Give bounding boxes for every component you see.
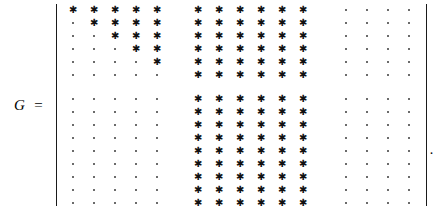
matrix-cell-nonzero (293, 131, 314, 144)
matrix-row (63, 131, 420, 144)
matrix-cell-nonzero (272, 144, 293, 157)
matrix-column-block (188, 157, 314, 170)
matrix-cell-nonzero (251, 29, 272, 42)
matrix-cell-nonzero (188, 29, 209, 42)
matrix-cell-nonzero (147, 16, 168, 29)
matrix-row (63, 68, 420, 81)
matrix-cell-zero (63, 42, 84, 55)
matrix-cell-nonzero (105, 3, 126, 16)
matrix-cell-nonzero (272, 29, 293, 42)
matrix-row (63, 105, 420, 118)
matrix-cell-nonzero (188, 16, 209, 29)
matrix-cell-nonzero (293, 183, 314, 196)
matrix-cell-nonzero (105, 16, 126, 29)
matrix-cell-nonzero (230, 170, 251, 183)
matrix-cell-nonzero (188, 170, 209, 183)
matrix-cell-nonzero (188, 92, 209, 105)
matrix-cell-nonzero (293, 42, 314, 55)
matrix-cell-nonzero (251, 183, 272, 196)
matrix-cell-nonzero (188, 131, 209, 144)
matrix-cell-nonzero (293, 118, 314, 131)
matrix-cell-nonzero (188, 68, 209, 81)
matrix-row-block (63, 92, 420, 209)
matrix-cell-nonzero (84, 3, 105, 16)
matrix-cell-nonzero (230, 16, 251, 29)
matrix-cell-nonzero (251, 68, 272, 81)
matrix-column-block (188, 42, 314, 55)
matrix-cell-nonzero (230, 42, 251, 55)
matrix-cell-nonzero (272, 118, 293, 131)
matrix-cell-nonzero (272, 105, 293, 118)
matrix-left-bracket (56, 4, 57, 206)
matrix-cell-nonzero (293, 170, 314, 183)
matrix-cell-nonzero (209, 92, 230, 105)
matrix-cell-nonzero (209, 68, 230, 81)
matrix-cell-nonzero (230, 3, 251, 16)
matrix-cell-nonzero (126, 29, 147, 42)
matrix-cell-nonzero (230, 55, 251, 68)
matrix-cell-nonzero (230, 144, 251, 157)
matrix-cell-zero (105, 55, 126, 68)
matrix-cell-nonzero (188, 157, 209, 170)
matrix-grid (63, 4, 420, 206)
matrix-cell-nonzero (209, 42, 230, 55)
matrix-cell-nonzero (209, 144, 230, 157)
matrix-cell-nonzero (293, 157, 314, 170)
matrix-cell-nonzero (251, 92, 272, 105)
matrix-cell-nonzero (230, 131, 251, 144)
matrix-cell-nonzero (293, 29, 314, 42)
matrix-cell-nonzero (209, 183, 230, 196)
matrix-cell-nonzero (293, 68, 314, 81)
matrix-column-block (188, 68, 314, 81)
matrix-cell-nonzero (251, 42, 272, 55)
matrix-row (63, 157, 420, 170)
matrix-cell-zero (84, 29, 105, 42)
matrix-column-block (188, 16, 314, 29)
matrix-cell-nonzero (147, 29, 168, 42)
matrix-cell-nonzero (230, 68, 251, 81)
matrix-cell-nonzero (251, 105, 272, 118)
matrix-cell-nonzero (188, 196, 209, 209)
matrix-cell-nonzero (126, 16, 147, 29)
matrix-right-bracket (426, 4, 427, 206)
matrix-cell-nonzero (251, 144, 272, 157)
matrix-cell-zero (63, 55, 84, 68)
matrix-cell-nonzero (251, 118, 272, 131)
matrix-cell-nonzero (230, 92, 251, 105)
matrix-cell-nonzero (230, 118, 251, 131)
matrix-cell-nonzero (293, 105, 314, 118)
matrix-cell-nonzero (209, 170, 230, 183)
matrix-cell-zero (63, 29, 84, 42)
matrix-variable-label: G (14, 97, 25, 114)
matrix-column-block (188, 105, 314, 118)
matrix-cell-nonzero (293, 55, 314, 68)
matrix-cell-nonzero (188, 183, 209, 196)
matrix-row (63, 92, 420, 105)
matrix-column-block (188, 131, 314, 144)
matrix-cell-nonzero (251, 157, 272, 170)
matrix-cell-nonzero (230, 105, 251, 118)
matrix-column-block (63, 3, 168, 16)
matrix-cell-nonzero (251, 131, 272, 144)
matrix-cell-nonzero (105, 29, 126, 42)
matrix-cell-nonzero (209, 118, 230, 131)
matrix-cell-nonzero (147, 42, 168, 55)
matrix-container (56, 4, 427, 206)
matrix-row (63, 144, 420, 157)
matrix-cell-nonzero (272, 3, 293, 16)
matrix-cell-nonzero (251, 196, 272, 209)
matrix-cell-nonzero (272, 157, 293, 170)
matrix-cell-nonzero (272, 131, 293, 144)
matrix-column-block (188, 144, 314, 157)
matrix-cell-nonzero (126, 42, 147, 55)
matrix-cell-nonzero (188, 55, 209, 68)
matrix-cell-nonzero (251, 170, 272, 183)
matrix-cell-nonzero (293, 92, 314, 105)
matrix-cell-nonzero (251, 16, 272, 29)
matrix-cell-zero (126, 55, 147, 68)
matrix-cell-nonzero (272, 92, 293, 105)
matrix-cell-zero (84, 42, 105, 55)
matrix-row (63, 3, 420, 16)
matrix-cell-nonzero (209, 29, 230, 42)
equation-left-hand-side: G = (14, 97, 43, 114)
